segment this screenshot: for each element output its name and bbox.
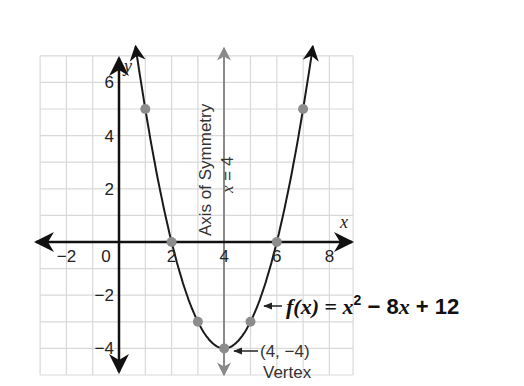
data-point — [193, 317, 203, 327]
x-tick-labels: −202468 — [57, 247, 334, 266]
data-point — [298, 104, 308, 114]
y-tick-label: −2 — [95, 286, 114, 305]
symmetry-equation: x = 4 — [218, 157, 237, 194]
function-label: f(x) = x2 − 8x + 12 — [286, 292, 459, 319]
data-point — [272, 237, 282, 247]
x-tick-label: −2 — [57, 247, 76, 266]
data-point — [219, 343, 229, 353]
y-tick-label: 2 — [105, 180, 114, 199]
x-axis-label: x — [339, 212, 348, 232]
x-tick-label: 2 — [167, 247, 176, 266]
y-tick-label: 6 — [105, 73, 114, 92]
x-tick-label: 0 — [101, 247, 110, 266]
parabola-chart: −202468 −4−2246 x y Axis of Symmetry x =… — [0, 0, 524, 386]
data-point — [246, 317, 256, 327]
x-tick-label: 4 — [219, 247, 228, 266]
symmetry-label-line1: Axis of Symmetry — [196, 103, 215, 236]
y-tick-label: −4 — [95, 339, 114, 358]
vertex-coordinate-label: (4, −4) — [260, 342, 310, 361]
symmetry-label: Axis of Symmetry — [196, 103, 215, 236]
y-axis-label: y — [122, 56, 132, 76]
vertex-name-label: Vertex — [263, 363, 312, 382]
data-point — [167, 237, 177, 247]
x-tick-label: 8 — [325, 247, 334, 266]
data-point — [140, 104, 150, 114]
y-tick-label: 4 — [105, 127, 114, 146]
x-tick-label: 6 — [272, 247, 281, 266]
symmetry-label-line2: x = 4 — [218, 157, 237, 194]
